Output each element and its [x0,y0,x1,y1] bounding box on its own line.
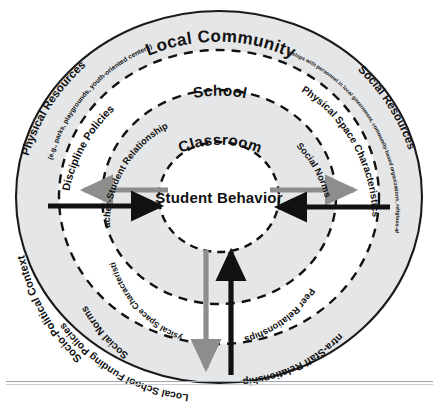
ring-label-school: School [192,82,249,102]
footer-divider-secondary [6,384,433,385]
diagram-canvas: Local Community School Classroom Student… [0,0,439,404]
ecological-systems-diagram: Local Community School Classroom Student… [0,0,439,404]
center-label-student-behavior: Student Behavior [155,189,282,206]
footer-divider [6,381,433,382]
